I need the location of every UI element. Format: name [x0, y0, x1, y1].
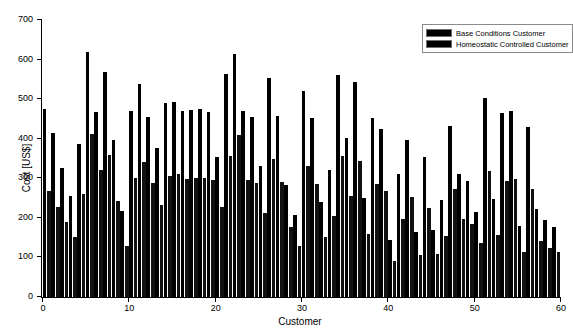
- bar-homeostatic-controlled: [167, 176, 172, 297]
- bar-homeostatic-controlled: [461, 219, 466, 297]
- bar-homeostatic-controlled: [314, 184, 319, 297]
- bar-group: [85, 20, 94, 297]
- bar-group: [525, 20, 534, 297]
- x-tick: 10: [128, 297, 129, 302]
- bar-homeostatic-controlled: [245, 180, 250, 297]
- bar-group: [292, 20, 301, 297]
- bar-group: [543, 20, 552, 297]
- bar-homeostatic-controlled: [159, 205, 164, 297]
- bar-group: [361, 20, 370, 297]
- x-tick: 20: [215, 297, 216, 302]
- bar-homeostatic-controlled: [236, 135, 241, 297]
- bar-group: [59, 20, 68, 297]
- bar-group: [344, 20, 353, 297]
- bar-homeostatic-controlled: [219, 207, 224, 297]
- bars-container: [42, 20, 560, 297]
- bar-group: [94, 20, 103, 297]
- bar-group: [431, 20, 440, 297]
- bar-homeostatic-controlled: [297, 246, 302, 297]
- x-tick-label: 10: [124, 303, 134, 314]
- plot-area: 0100200300400500600700 0102030405060: [41, 20, 560, 298]
- x-tick-label: 0: [40, 303, 45, 314]
- bar-homeostatic-controlled: [357, 161, 362, 297]
- bar-homeostatic-controlled: [478, 243, 483, 297]
- bar-group: [353, 20, 362, 297]
- bar-group: [508, 20, 517, 297]
- bar-homeostatic-controlled: [193, 178, 198, 297]
- bar-group: [474, 20, 483, 297]
- x-tick-label: 60: [556, 303, 566, 314]
- bar-homeostatic-controlled: [366, 234, 371, 297]
- bar-group: [258, 20, 267, 297]
- bar-homeostatic-controlled: [55, 207, 60, 297]
- y-tick: 300: [37, 177, 42, 178]
- bar-group: [51, 20, 60, 297]
- bar-homeostatic-controlled: [133, 178, 138, 297]
- bar-group: [42, 20, 51, 297]
- bar-homeostatic-controlled: [400, 219, 405, 297]
- y-tick: 600: [37, 59, 42, 60]
- y-tick: 100: [37, 256, 42, 257]
- x-axis-label: Customer: [41, 316, 559, 327]
- bar-homeostatic-controlled: [331, 216, 336, 297]
- bar-group: [206, 20, 215, 297]
- bar-homeostatic-controlled: [89, 134, 94, 297]
- bar-homeostatic-controlled: [435, 254, 440, 297]
- bar-homeostatic-controlled: [547, 248, 552, 297]
- bar-homeostatic-controlled: [426, 208, 431, 297]
- bar-group: [154, 20, 163, 297]
- bar-homeostatic-controlled: [418, 255, 423, 297]
- bar-homeostatic-controlled: [72, 237, 77, 297]
- bar-homeostatic-controlled: [323, 237, 328, 297]
- bar-group: [387, 20, 396, 297]
- x-tick-label: 50: [470, 303, 480, 314]
- bar-homeostatic-controlled: [288, 227, 293, 297]
- bar-homeostatic-controlled: [150, 183, 155, 297]
- bar-group: [232, 20, 241, 297]
- y-tick-label: 0: [28, 291, 33, 302]
- bar-group: [215, 20, 224, 297]
- bar-group: [517, 20, 526, 297]
- bar-group: [102, 20, 111, 297]
- bar-group: [77, 20, 86, 297]
- bar-homeostatic-controlled: [46, 191, 51, 297]
- bar-homeostatic-controlled: [383, 191, 388, 297]
- bar-homeostatic-controlled: [340, 156, 345, 297]
- bar-group: [275, 20, 284, 297]
- bar-group: [491, 20, 500, 297]
- bar-homeostatic-controlled: [176, 174, 181, 297]
- bar-group: [111, 20, 120, 297]
- x-tick-label: 20: [211, 303, 221, 314]
- bar-group: [197, 20, 206, 297]
- bar-homeostatic-controlled: [81, 194, 86, 297]
- y-tick-label: 100: [18, 251, 33, 262]
- bar-homeostatic-controlled: [556, 252, 561, 297]
- legend-label-base: Base Conditions Customer: [456, 29, 545, 38]
- bar-homeostatic-controlled: [64, 222, 69, 297]
- x-tick: 40: [387, 297, 388, 302]
- bar-group: [456, 20, 465, 297]
- y-tick-label: 600: [18, 54, 33, 65]
- y-tick-label: 500: [18, 93, 33, 104]
- bar-group: [551, 20, 560, 297]
- bar-group: [284, 20, 293, 297]
- x-tick: 0: [42, 297, 43, 302]
- bar-homeostatic-controlled: [107, 155, 112, 297]
- bar-homeostatic-controlled: [115, 201, 120, 297]
- bar-homeostatic-controlled: [254, 183, 259, 297]
- bar-group: [266, 20, 275, 297]
- bar-group: [422, 20, 431, 297]
- x-tick: 30: [301, 297, 302, 302]
- y-tick: 200: [37, 217, 42, 218]
- legend-swatch-homeostatic: [426, 40, 452, 48]
- legend-item-homeostatic: Homeostatic Controlled Customer: [426, 39, 569, 49]
- legend-item-base: Base Conditions Customer: [426, 28, 569, 38]
- bar-homeostatic-controlled: [409, 197, 414, 297]
- bar-homeostatic-controlled: [184, 179, 189, 297]
- bar-homeostatic-controlled: [98, 170, 103, 297]
- bar-group: [172, 20, 181, 297]
- bar-group: [396, 20, 405, 297]
- bar-group: [146, 20, 155, 297]
- bar-group: [465, 20, 474, 297]
